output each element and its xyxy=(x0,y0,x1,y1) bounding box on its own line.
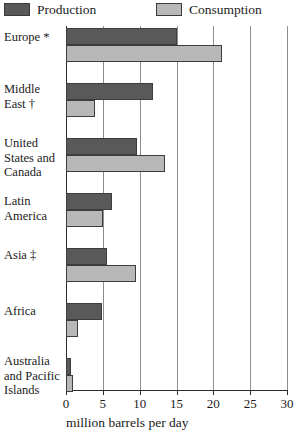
tick-5 xyxy=(103,390,104,395)
tick-label-25: 25 xyxy=(244,397,257,411)
bar-consumption-0 xyxy=(66,45,222,62)
tick-label-20: 20 xyxy=(207,397,220,411)
legend-label-production: Production xyxy=(37,2,96,17)
bar-chart: 051015202530 Europe *Middle East †United… xyxy=(0,26,300,433)
consumption-swatch-icon xyxy=(156,3,182,16)
category-label-4: Asia ‡ xyxy=(4,248,64,263)
tick-label-10: 10 xyxy=(133,397,146,411)
tick-label-5: 5 xyxy=(100,397,107,411)
gridline-30 xyxy=(287,26,288,390)
bar-production-4 xyxy=(66,248,107,265)
tick-20 xyxy=(213,390,214,395)
bar-production-5 xyxy=(66,303,102,320)
bar-consumption-4 xyxy=(66,265,136,282)
bar-consumption-3 xyxy=(66,210,103,227)
category-label-2: United States and Canada xyxy=(4,136,64,180)
x-axis-title: million barrels per day xyxy=(66,415,189,430)
gridline-10 xyxy=(140,26,141,390)
bar-consumption-2 xyxy=(66,155,165,172)
tick-label-0: 0 xyxy=(63,397,70,411)
tick-30 xyxy=(287,390,288,395)
bar-production-0 xyxy=(66,28,177,45)
tick-25 xyxy=(250,390,251,395)
chart-legend: Production Consumption xyxy=(0,0,300,24)
legend-entry-production: Production xyxy=(4,2,96,17)
category-label-0: Europe * xyxy=(4,30,64,45)
category-label-5: Africa xyxy=(4,304,64,319)
gridline-20 xyxy=(213,26,214,390)
legend-entry-consumption: Consumption xyxy=(156,2,262,17)
tick-label-30: 30 xyxy=(281,397,294,411)
bar-production-2 xyxy=(66,138,137,155)
production-swatch-icon xyxy=(4,3,30,16)
bar-consumption-6 xyxy=(66,375,73,392)
bar-production-6 xyxy=(66,358,71,375)
tick-15 xyxy=(177,390,178,395)
category-label-3: Latin America xyxy=(4,194,64,223)
bar-production-1 xyxy=(66,83,153,100)
category-label-6: Australia and Pacific Islands xyxy=(4,354,64,398)
category-label-1: Middle East † xyxy=(4,82,64,111)
bar-consumption-5 xyxy=(66,320,78,337)
tick-label-15: 15 xyxy=(170,397,183,411)
bar-production-3 xyxy=(66,193,112,210)
legend-label-consumption: Consumption xyxy=(189,2,262,17)
bar-consumption-1 xyxy=(66,100,95,117)
gridline-25 xyxy=(250,26,251,390)
tick-10 xyxy=(140,390,141,395)
gridline-15 xyxy=(177,26,178,390)
